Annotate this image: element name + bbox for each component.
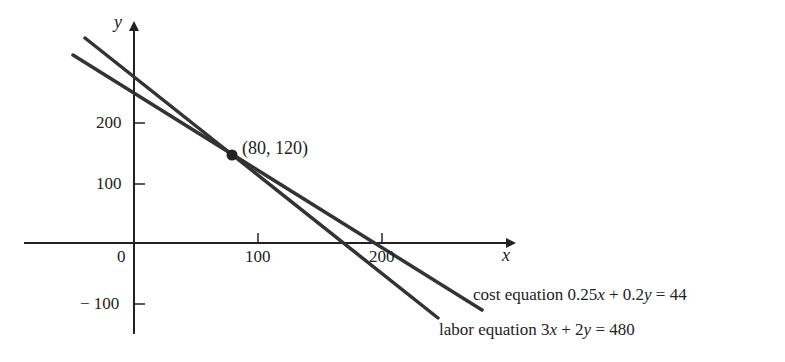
y-tick-label-200: 200 [96,113,122,133]
origin-label: 0 [117,247,126,267]
labor-eq-prefix: labor equation 3 [439,320,549,339]
labor-eq-mid: + 2 [557,320,584,339]
cost-eq-y: y [644,285,652,304]
x-tick-label-100: 100 [245,247,271,267]
y-tick-label-100: 100 [96,174,122,194]
intersection-point [227,150,238,161]
intersection-label: (80, 120) [242,138,308,159]
cost-equation-label: cost equation 0.25x + 0.2y = 44 [473,285,687,305]
labor-equation-line [85,38,438,318]
labor-eq-x: x [549,320,557,339]
y-axis-label: y [114,12,122,33]
x-axis-label: x [502,245,510,266]
cost-eq-rhs: = 44 [652,285,687,304]
cost-eq-mid: + 0.2 [605,285,644,304]
labor-eq-rhs: = 480 [591,320,635,339]
cost-eq-prefix: cost equation 0.25 [473,285,597,304]
labor-equation-label: labor equation 3x + 2y = 480 [439,320,635,340]
x-tick-label-200: 200 [369,247,395,267]
linear-equations-chart: y x 0 100 200 200 100 − 100 (80, 120) co… [0,0,785,362]
cost-eq-x: x [597,285,605,304]
y-tick-label-neg100: − 100 [80,294,119,314]
